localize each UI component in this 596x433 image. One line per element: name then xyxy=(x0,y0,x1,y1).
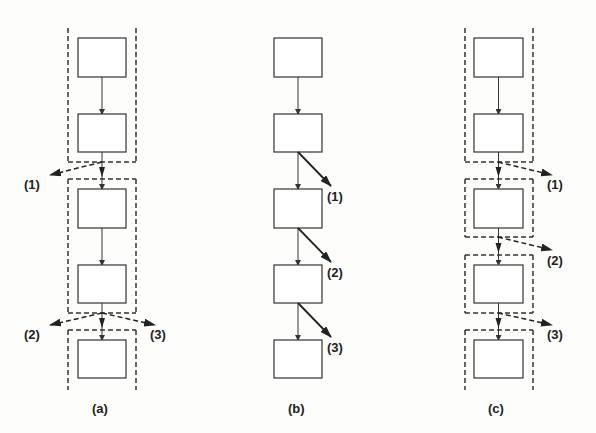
branch-arrow xyxy=(498,313,552,325)
process-box xyxy=(78,340,126,378)
branch-arrow xyxy=(498,237,552,250)
boundary-arrowhead xyxy=(99,167,105,177)
process-box xyxy=(474,189,523,228)
diagram-canvas: (1)(2)(3)(a)(1)(2)(3)(b)(1)(2)(3)(c) xyxy=(0,0,596,433)
branch-arrow xyxy=(498,162,552,175)
branch-arrow xyxy=(298,152,331,186)
panel-caption: (b) xyxy=(288,402,305,415)
panel-caption: (c) xyxy=(488,402,504,415)
process-box xyxy=(474,114,523,152)
branch-label: (2) xyxy=(547,254,563,267)
process-box xyxy=(274,340,322,378)
branch-arrow xyxy=(102,313,155,325)
branch-label: (3) xyxy=(327,341,343,354)
boundary-arrowhead xyxy=(496,167,502,177)
branch-label: (1) xyxy=(24,178,40,191)
branch-arrow xyxy=(50,313,102,325)
process-box xyxy=(474,38,523,77)
panel-c xyxy=(465,28,552,390)
process-box xyxy=(274,114,322,152)
branch-arrow xyxy=(298,303,331,337)
boundary-arrowhead xyxy=(99,318,105,328)
branch-label: (2) xyxy=(327,266,343,279)
process-box xyxy=(78,265,126,303)
panel-a xyxy=(50,28,155,390)
panel-b xyxy=(274,38,331,378)
process-box xyxy=(78,38,126,77)
process-box xyxy=(474,265,523,303)
branch-label: (1) xyxy=(547,178,563,191)
process-box xyxy=(78,189,126,228)
boundary-arrowhead xyxy=(496,318,502,328)
boundary-arrowhead xyxy=(496,243,502,253)
process-box xyxy=(274,265,322,303)
branch-label: (3) xyxy=(150,328,166,341)
branch-arrow xyxy=(50,162,102,175)
process-box xyxy=(274,189,322,228)
branch-label: (2) xyxy=(24,328,40,341)
branch-arrow xyxy=(298,228,331,262)
flow-diagrams xyxy=(0,0,596,433)
panel-caption: (a) xyxy=(92,402,108,415)
process-box xyxy=(78,114,126,152)
process-box xyxy=(474,340,523,378)
process-box xyxy=(274,38,322,77)
branch-label: (3) xyxy=(547,328,563,341)
branch-label: (1) xyxy=(327,190,343,203)
